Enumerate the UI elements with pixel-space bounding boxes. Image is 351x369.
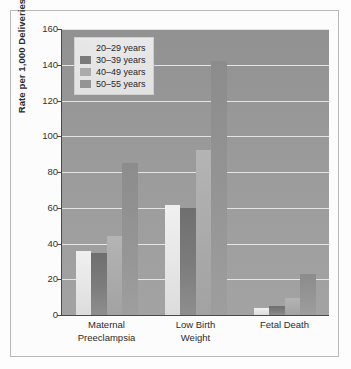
- gridline: [62, 136, 329, 137]
- bar: [107, 236, 123, 315]
- x-axis-tick-labels: Maternal PreeclampsiaLow Birth WeightFet…: [62, 318, 329, 358]
- gridline: [62, 101, 329, 102]
- y-tick-mark: [57, 244, 61, 245]
- gridline: [62, 29, 329, 30]
- legend-label: 20–29 years: [96, 42, 146, 54]
- bar: [196, 150, 212, 315]
- y-tick-label: 140: [24, 59, 58, 70]
- bar: [269, 306, 285, 315]
- x-axis-line: [62, 315, 329, 316]
- legend-item: 40–49 years: [80, 66, 146, 78]
- legend-label: 40–49 years: [96, 66, 146, 78]
- bar: [122, 163, 138, 315]
- plot-area: 20–29 years30–39 years40–49 years50–55 y…: [62, 29, 329, 315]
- bar: [211, 61, 227, 315]
- y-tick-mark: [57, 279, 61, 280]
- y-tick-mark: [57, 315, 61, 316]
- bar: [165, 205, 181, 315]
- y-tick-mark: [57, 65, 61, 66]
- chart-figure: Rate per 1,000 Deliveries 02040608010012…: [0, 0, 351, 369]
- y-tick-label: 80: [24, 166, 58, 177]
- x-tick-label: Maternal Preeclampsia: [62, 318, 151, 344]
- y-tick-mark: [57, 101, 61, 102]
- bar: [254, 308, 270, 315]
- y-tick-mark: [57, 172, 61, 173]
- bar: [180, 208, 196, 315]
- y-tick-label: 120: [24, 95, 58, 106]
- legend-swatch-icon: [80, 44, 91, 52]
- x-tick-label: Low Birth Weight: [151, 318, 240, 344]
- legend: 20–29 years30–39 years40–49 years50–55 y…: [74, 37, 154, 95]
- x-tick-label: Fetal Death: [240, 318, 329, 331]
- legend-swatch-icon: [80, 56, 91, 64]
- legend-label: 50–55 years: [96, 78, 146, 90]
- legend-item: 30–39 years: [80, 54, 146, 66]
- y-tick-label: 100: [24, 130, 58, 141]
- legend-item: 20–29 years: [80, 42, 146, 54]
- y-tick-mark: [57, 136, 61, 137]
- legend-label: 30–39 years: [96, 54, 146, 66]
- legend-swatch-icon: [80, 80, 91, 88]
- y-tick-label: 40: [24, 238, 58, 249]
- y-tick-label: 60: [24, 202, 58, 213]
- y-tick-label: 20: [24, 273, 58, 284]
- y-tick-mark: [57, 208, 61, 209]
- legend-swatch-icon: [80, 68, 91, 76]
- bar: [285, 298, 301, 315]
- y-tick-label: 160: [24, 23, 58, 34]
- y-tick-label: 0: [24, 309, 58, 320]
- bar: [300, 274, 316, 315]
- y-tick-mark: [57, 29, 61, 30]
- bar: [91, 253, 107, 315]
- legend-item: 50–55 years: [80, 78, 146, 90]
- bar: [76, 251, 92, 315]
